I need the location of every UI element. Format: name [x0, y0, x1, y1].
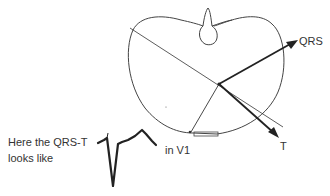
t-label: T — [280, 140, 287, 152]
thorax-outline — [128, 17, 284, 134]
chest-cross-section-diagram — [0, 0, 330, 196]
qrs-label: QRS — [299, 35, 323, 47]
v1-position-dot — [189, 131, 192, 134]
speck — [165, 106, 166, 107]
heart-center-dot — [217, 82, 220, 85]
caption-line-1: Here the QRS-T — [8, 136, 87, 148]
v1-lead-line — [191, 84, 219, 132]
qrs-vector — [219, 43, 292, 84]
r-wave-tick — [107, 133, 108, 138]
spine — [181, 8, 232, 45]
qrs-arrowhead — [286, 40, 298, 49]
caption-line-2: looks like — [8, 152, 53, 164]
lead-label: in V1 — [165, 144, 190, 156]
v1-ecg-trace — [98, 130, 156, 186]
lead-axis-line — [130, 28, 283, 127]
t-vector — [219, 84, 274, 133]
